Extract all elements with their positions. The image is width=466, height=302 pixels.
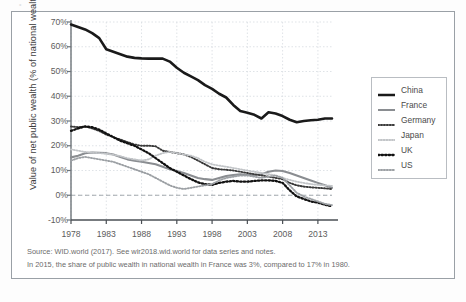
legend-item-us[interactable]: US: [372, 158, 446, 173]
legend-swatch-icon: [378, 131, 395, 141]
x-tick-label: 1978: [51, 230, 91, 239]
explanatory-note: In 2015, the share of public wealth in n…: [27, 258, 447, 271]
x-tick-label: 2008: [263, 230, 303, 239]
figure-root: • Value of net public wealth (% of natio…: [0, 0, 466, 302]
legend-item-china[interactable]: China: [372, 83, 446, 98]
figure-caption: [11, 288, 455, 300]
corner-mark: •: [19, 2, 25, 8]
x-tick-label: 1988: [122, 230, 162, 239]
legend-item-germany[interactable]: Germany: [372, 113, 446, 128]
x-tick-label: 2013: [298, 230, 338, 239]
series-line-china: [71, 24, 332, 122]
series-line-japan: [71, 149, 332, 185]
chart-frame: Value of net public wealth (% of nationa…: [11, 11, 455, 279]
legend-swatch-icon: [378, 161, 395, 171]
legend-item-france[interactable]: France: [372, 98, 446, 113]
legend-label: Germany: [401, 116, 435, 124]
legend-label: UK: [401, 146, 413, 154]
legend-label: US: [401, 161, 413, 169]
x-tick-label: 1983: [86, 230, 126, 239]
legend-label: France: [401, 101, 427, 109]
legend-label: Japan: [401, 131, 424, 139]
x-axis-ticks: 19781983198819931998200320082013: [12, 230, 456, 244]
x-tick-label: 2003: [227, 230, 267, 239]
legend-swatch-icon: [378, 101, 395, 111]
legend-item-uk[interactable]: UK: [372, 143, 446, 158]
chart-notes: Source: WID.world (2017). See wir2018.wi…: [27, 245, 447, 271]
source-note: Source: WID.world (2017). See wir2018.wi…: [27, 245, 447, 258]
legend-swatch-icon: [378, 86, 395, 96]
x-tick-label: 1998: [192, 230, 232, 239]
series-line-uk: [71, 126, 332, 206]
legend-swatch-icon: [378, 146, 395, 156]
x-tick-label: 1993: [157, 230, 197, 239]
legend-label: China: [401, 86, 423, 94]
chart-legend[interactable]: ChinaFranceGermanyJapanUKUS: [371, 77, 447, 179]
legend-item-japan[interactable]: Japan: [372, 128, 446, 143]
legend-swatch-icon: [378, 116, 395, 126]
